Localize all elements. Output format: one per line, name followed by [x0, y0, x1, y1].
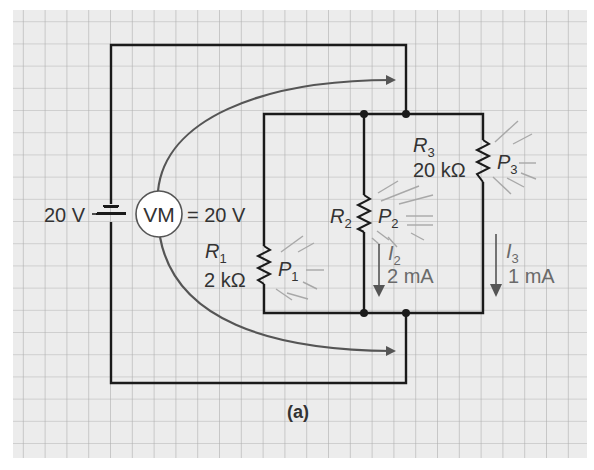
- node-dot: [360, 110, 368, 118]
- r3-value: 20 kΩ: [413, 159, 466, 181]
- r1-value: 2 kΩ: [204, 269, 246, 291]
- figure-caption: (a): [287, 402, 309, 422]
- i3-value: 1 mA: [508, 265, 555, 287]
- i2-value: 2 mA: [387, 265, 434, 287]
- circuit-diagram: VM = 20 V 20 V R1 2 kΩ P1 R2 P2 R3 20 kΩ…: [0, 0, 594, 470]
- node-dot: [402, 110, 410, 118]
- voltmeter-label: VM: [143, 203, 175, 226]
- graph-paper-background: [13, 10, 587, 458]
- voltmeter-reading: = 20 V: [187, 204, 246, 226]
- node-dot: [402, 309, 410, 317]
- voltmeter: VM: [136, 191, 182, 237]
- source-voltage-label: 20 V: [44, 204, 86, 226]
- node-dot: [360, 309, 368, 317]
